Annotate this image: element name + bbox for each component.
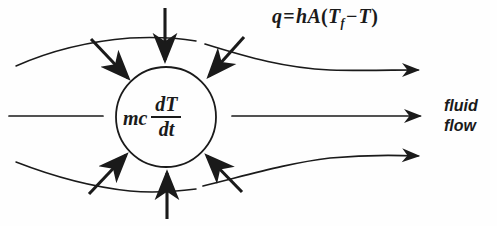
fluid-flow-line-1: fluid bbox=[444, 96, 478, 116]
eq-equals: = bbox=[282, 5, 296, 27]
diagram-canvas bbox=[0, 0, 497, 226]
heat-arrow-top-left bbox=[91, 39, 128, 78]
eq-q: q bbox=[272, 5, 282, 27]
eq-T-fluid: T bbox=[328, 5, 341, 27]
eq-mc: mc bbox=[123, 108, 147, 128]
convective-heat-rate-equation: q=hA(Tf−T) bbox=[272, 6, 378, 29]
eq-h: h bbox=[296, 5, 307, 27]
fraction-numerator: dT bbox=[153, 94, 179, 116]
eq-paren-close: ) bbox=[371, 5, 378, 27]
fluid-flow-label: fluid flow bbox=[444, 96, 478, 137]
lower-streamline-right bbox=[203, 155, 418, 186]
fluid-flow-line-2: flow bbox=[444, 116, 478, 136]
upper-streamline-left bbox=[16, 37, 196, 66]
heat-transfer-diagram: q=hA(Tf−T) mc dT dt fluid flow bbox=[0, 0, 497, 226]
fraction-denominator: dt bbox=[157, 118, 177, 140]
eq-minus: − bbox=[345, 5, 359, 27]
thermal-capacitance-equation: mc dT dt bbox=[123, 94, 181, 140]
eq-T-body: T bbox=[359, 5, 372, 27]
eq-A: A bbox=[307, 5, 321, 27]
heat-arrow-bottom-right bbox=[207, 156, 242, 192]
derivative-fraction: dT dt bbox=[151, 94, 181, 140]
heat-arrow-top-right bbox=[209, 37, 244, 76]
upper-streamline-right bbox=[205, 44, 418, 70]
